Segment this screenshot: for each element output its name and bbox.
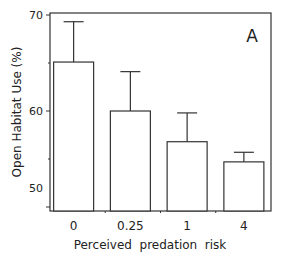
bar — [224, 162, 264, 211]
x-tick-label: 0.25 — [117, 219, 144, 233]
x-axis-label: Perceived predation risk — [74, 238, 227, 252]
y-axis: 506070 — [29, 9, 50, 207]
panel-label: A — [246, 26, 258, 46]
x-tick-label: 1 — [183, 219, 191, 233]
y-tick-label: 60 — [29, 105, 43, 118]
bar-group — [224, 152, 264, 211]
x-axis: 00.2514 — [70, 211, 248, 233]
bar-chart: 506070 00.2514 A Perceived predation ris… — [0, 0, 282, 271]
bar-group — [110, 72, 150, 211]
y-tick-label: 70 — [29, 9, 43, 22]
x-tick-label: 4 — [240, 219, 248, 233]
bar-group — [167, 113, 207, 211]
y-axis-label: Open Habitat Use (%) — [10, 47, 24, 178]
bar — [54, 62, 94, 211]
bar — [110, 111, 150, 211]
bar-group — [54, 22, 94, 211]
bar — [167, 142, 207, 211]
x-tick-label: 0 — [70, 219, 78, 233]
y-tick-label: 50 — [29, 182, 43, 195]
bars — [54, 22, 264, 211]
